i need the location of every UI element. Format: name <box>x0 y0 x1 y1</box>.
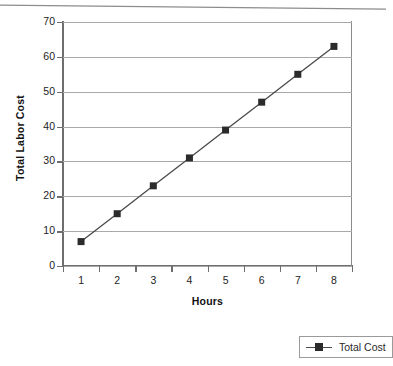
x-axis-tick <box>99 266 100 272</box>
y-axis-tick-label: 70 <box>15 16 55 27</box>
x-axis-tick-label: 2 <box>106 274 128 286</box>
x-axis-tick-label: 4 <box>178 274 200 286</box>
x-axis-tick-label: 6 <box>251 274 273 286</box>
x-axis-tick-label: 7 <box>287 274 309 286</box>
x-axis-tick <box>316 266 317 272</box>
y-axis-tick-label: 0 <box>15 260 55 271</box>
x-axis-tick <box>63 266 64 272</box>
y-axis-tick-label: 60 <box>15 51 55 62</box>
x-axis-title: Hours <box>63 295 352 307</box>
x-axis-tick <box>244 266 245 272</box>
data-point-marker <box>150 182 157 189</box>
data-point-marker <box>258 99 265 106</box>
data-point-marker <box>294 71 301 78</box>
data-point-marker <box>222 127 229 134</box>
x-axis-tick-label: 5 <box>215 274 237 286</box>
x-axis-tick-label: 8 <box>323 274 345 286</box>
legend-item-label: Total Cost <box>339 341 386 353</box>
x-axis-tick <box>280 266 281 272</box>
line-chart: Total Labor Cost 706050403020100 1234567… <box>0 0 386 330</box>
x-axis-tick <box>171 266 172 272</box>
y-axis-tick-label: 30 <box>15 155 55 166</box>
data-point-marker <box>330 43 337 50</box>
y-axis-tick-label: 40 <box>15 121 55 132</box>
y-axis-tick-label: 20 <box>15 190 55 201</box>
square-marker-icon <box>306 341 332 353</box>
data-point-marker <box>114 210 121 217</box>
x-axis-tick <box>352 266 353 272</box>
plot-area <box>63 22 352 266</box>
x-axis-tick <box>135 266 136 272</box>
y-axis-tick-label: 10 <box>15 225 55 236</box>
x-axis-tick <box>208 266 209 272</box>
legend-square-glyph <box>315 343 323 351</box>
series-total-cost <box>63 22 352 266</box>
y-axis-tick-label: 50 <box>15 86 55 97</box>
data-point-marker <box>78 238 85 245</box>
data-point-marker <box>186 154 193 161</box>
x-axis-tick-label: 3 <box>142 274 164 286</box>
chart-legend: Total Cost <box>299 336 393 358</box>
x-axis-tick-label: 1 <box>70 274 92 286</box>
legend-item: Total Cost <box>306 340 386 354</box>
